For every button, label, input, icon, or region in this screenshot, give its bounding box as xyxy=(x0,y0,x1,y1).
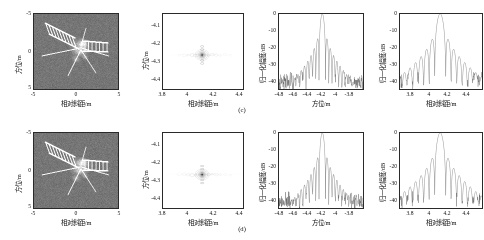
az-xtick-4-c: -4 xyxy=(328,91,342,97)
contour-xtick-3-c: 4.4 xyxy=(230,91,248,97)
rg-ytick-1-c: -10 xyxy=(379,27,397,33)
contour-xtick-2-c: 4.2 xyxy=(204,91,222,97)
panel-isar-image-d: -5 0 5 -5 0 5 相对斜距/m 方位/m xyxy=(0,119,130,237)
panel-azimuth-profile-d: 0 -10 -20 -30 -40 -4.8 -4.6 -4.4 -4.2 -4… xyxy=(252,119,370,237)
panel-range-profile-c: 0 -10 -20 -30 -40 3.8 4 4.2 4.4 相对斜距/m 归… xyxy=(368,0,484,118)
point-contour-frame-d xyxy=(162,132,244,209)
panel-point-contour-d: -4.1 -4.2 -4.3 -4.4 3.8 4 4.2 4.4 相对斜距/m… xyxy=(130,119,252,237)
azimuth-profile-frame-c xyxy=(278,13,364,90)
isar-axes-frame-c xyxy=(33,13,119,90)
contour-ytick-1-c: -4.2 xyxy=(142,40,160,46)
contour-ytick-3-c: -4.4 xyxy=(142,76,160,82)
az-ytick-1-d: -10 xyxy=(258,146,276,152)
isar-xtick-0-d: -5 xyxy=(23,210,43,216)
az-xtick-4-d: -4 xyxy=(328,210,342,216)
isar-ylabel-c: 方位/m xyxy=(14,55,23,74)
rg-xlabel-d: 相对斜距/m xyxy=(408,218,474,227)
contour-ylabel-c: 方位/m xyxy=(141,51,150,70)
contour-ytick-0-c: -4.1 xyxy=(142,22,160,28)
az-xtick-3-d: -4.2 xyxy=(313,210,329,216)
isar-axes-frame-d xyxy=(33,132,119,209)
az-ytick-0-c: 0 xyxy=(262,10,276,16)
rg-xtick-1-c: 4 xyxy=(422,91,436,97)
az-ylabel-d: 归一化幅度/dB xyxy=(258,163,267,202)
range-profile-frame-c xyxy=(399,13,483,90)
contour-xtick-0-c: 3.8 xyxy=(153,91,171,97)
subfigure-caption-d: (d) xyxy=(222,225,262,232)
isar-ylabel-d: 方位/m xyxy=(14,174,23,193)
isar-ytick-2-c: 5 xyxy=(17,84,31,90)
rg-xtick-1-d: 4 xyxy=(422,210,436,216)
rg-ylabel-d: 归一化幅度/dB xyxy=(378,163,387,202)
isar-xlabel-d: 相对斜距/m xyxy=(43,218,109,227)
rg-xtick-2-c: 4.2 xyxy=(438,91,456,97)
subfigure-caption-c: (c) xyxy=(222,106,262,113)
isar-ytick-1-c: 0 xyxy=(17,48,31,54)
contour-xtick-3-d: 4.4 xyxy=(230,210,248,216)
azimuth-profile-frame-d xyxy=(278,132,364,209)
isar-xtick-1-c: 0 xyxy=(66,91,86,97)
rg-xtick-3-d: 4.4 xyxy=(457,210,475,216)
contour-xtick-1-c: 4 xyxy=(180,91,194,97)
panel-range-profile-d: 0 -10 -20 -30 -40 3.8 4 4.2 4.4 相对斜距/m 归… xyxy=(368,119,484,237)
contour-xtick-2-d: 4.2 xyxy=(204,210,222,216)
rg-xtick-3-c: 4.4 xyxy=(457,91,475,97)
rg-ylabel-c: 归一化幅度/dB xyxy=(378,44,387,83)
rg-ytick-0-c: 0 xyxy=(383,10,397,16)
isar-ytick-1-d: 0 xyxy=(17,167,31,173)
rg-xtick-0-c: 3.8 xyxy=(401,91,419,97)
point-contour-frame-c xyxy=(162,13,244,90)
contour-ytick-1-d: -4.2 xyxy=(142,159,160,165)
az-xlabel-d: 方位/m xyxy=(296,218,346,227)
isar-xtick-0-c: -5 xyxy=(23,91,43,97)
panel-isar-image-c: -5 0 5 -5 0 5 相对斜距/m 方位/m xyxy=(0,0,130,118)
rg-ytick-0-d: 0 xyxy=(383,129,397,135)
panel-point-contour-c: -4.1 -4.2 -4.3 -4.4 3.8 4 4.2 4.4 相对斜距/m… xyxy=(130,0,252,118)
rg-xtick-0-d: 3.8 xyxy=(401,210,419,216)
contour-ytick-3-d: -4.4 xyxy=(142,195,160,201)
figure-row-c: -5 0 5 -5 0 5 相对斜距/m 方位/m -4.1 -4.2 -4.3… xyxy=(0,0,484,118)
az-ylabel-c: 归一化幅度/dB xyxy=(258,44,267,83)
isar-xtick-1-d: 0 xyxy=(66,210,86,216)
az-xtick-5-d: -3.8 xyxy=(341,210,357,216)
isar-xtick-2-c: 5 xyxy=(109,91,129,97)
az-ytick-1-c: -10 xyxy=(258,27,276,33)
az-xtick-5-c: -3.8 xyxy=(341,91,357,97)
figure-row-d: -5 0 5 -5 0 5 相对斜距/m 方位/m -4.1 -4.2 -4.3… xyxy=(0,119,484,237)
rg-xlabel-c: 相对斜距/m xyxy=(408,99,474,108)
contour-xtick-1-d: 4 xyxy=(180,210,194,216)
contour-xtick-0-d: 3.8 xyxy=(153,210,171,216)
isar-ytick-0-d: -5 xyxy=(17,129,31,135)
panel-azimuth-profile-c: 0 -10 -20 -30 -40 -4.8 -4.6 -4.4 -4.2 -4… xyxy=(252,0,370,118)
contour-ytick-0-d: -4.1 xyxy=(142,141,160,147)
isar-ytick-0-c: -5 xyxy=(17,10,31,16)
rg-ytick-1-d: -10 xyxy=(379,146,397,152)
isar-xtick-2-d: 5 xyxy=(109,210,129,216)
isar-xlabel-c: 相对斜距/m xyxy=(43,99,109,108)
figure-container: -5 0 5 -5 0 5 相对斜距/m 方位/m -4.1 -4.2 -4.3… xyxy=(0,0,484,240)
contour-ylabel-d: 方位/m xyxy=(141,170,150,189)
range-profile-frame-d xyxy=(399,132,483,209)
rg-xtick-2-d: 4.2 xyxy=(438,210,456,216)
az-ytick-0-d: 0 xyxy=(262,129,276,135)
isar-ytick-2-d: 5 xyxy=(17,203,31,209)
az-xlabel-c: 方位/m xyxy=(296,99,346,108)
az-xtick-3-c: -4.2 xyxy=(313,91,329,97)
